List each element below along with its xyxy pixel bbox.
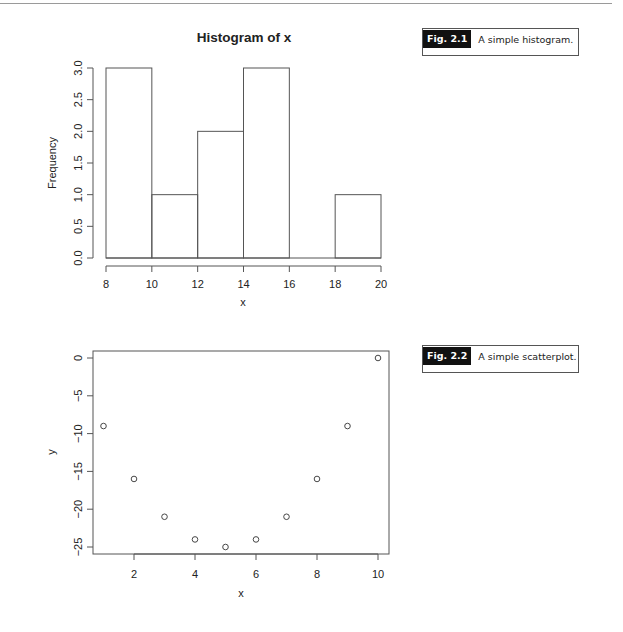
- y-tick-label: −25: [72, 538, 84, 557]
- x-tick-label: 2: [131, 568, 137, 580]
- x-tick-label: 6: [253, 568, 259, 580]
- scatterplot-x-axis: 246810: [131, 554, 384, 580]
- scatter-point: [162, 514, 168, 520]
- scatter-point: [345, 423, 351, 429]
- y-tick-label: −5: [72, 390, 84, 403]
- scatter-point: [192, 537, 198, 543]
- x-tick-label: 4: [192, 568, 198, 580]
- y-tick-label: 0: [72, 355, 84, 361]
- x-tick-label: 10: [372, 568, 384, 580]
- scatter-point: [284, 514, 290, 520]
- figure-number-tag: Fig. 2.2: [423, 347, 471, 365]
- figure-caption-text: A simple scatterplot.: [478, 351, 576, 362]
- figure-caption-text: A simple histogram.: [478, 34, 573, 45]
- scatterplot-plot-box: [93, 351, 389, 554]
- y-tick-label: −20: [72, 500, 84, 519]
- figure-number-tag: Fig. 2.1: [423, 30, 471, 48]
- scatterplot-y-label: y: [45, 449, 57, 455]
- y-tick-label: −15: [72, 462, 84, 481]
- scatter-point: [101, 423, 107, 429]
- figure-caption-2-2: Fig. 2.2 A simple scatterplot.: [422, 345, 579, 373]
- y-tick-label: −10: [72, 424, 84, 443]
- scatterplot-points: [101, 355, 381, 550]
- scatter-point: [253, 537, 259, 543]
- scatterplot-figure: 246810 0−5−10−15−20−25 x y: [0, 0, 623, 632]
- scatter-point: [131, 476, 137, 482]
- figure-caption-2-1: Fig. 2.1 A simple histogram.: [422, 28, 579, 56]
- scatterplot-y-axis: 0−5−10−15−20−25: [72, 355, 93, 556]
- scatter-point: [314, 476, 320, 482]
- scatterplot-x-label: x: [238, 587, 244, 599]
- scatter-point: [223, 544, 229, 550]
- scatter-point: [375, 355, 381, 361]
- x-tick-label: 8: [314, 568, 320, 580]
